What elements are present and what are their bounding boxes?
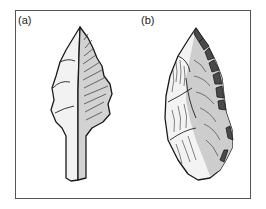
artifact-a-left-face: [51, 27, 80, 181]
artifact-b: [165, 28, 233, 180]
artifacts-illustration: [0, 0, 266, 209]
artifact-a-right-face: [78, 27, 112, 180]
artifact-a: [51, 27, 112, 181]
